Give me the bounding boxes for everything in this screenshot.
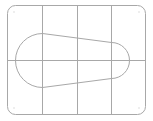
corner-dot-bottom-right — [138, 107, 139, 108]
plate-diagram — [0, 0, 153, 121]
corner-dot-top-left — [13, 11, 14, 12]
corner-dot-bottom-left — [13, 107, 14, 108]
corner-dot-top-right — [138, 11, 139, 12]
